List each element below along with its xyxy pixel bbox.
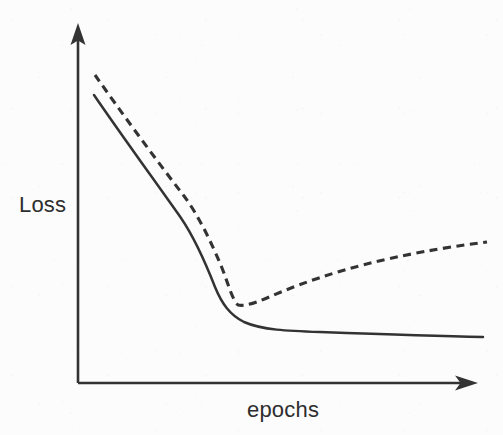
training-loss-curve xyxy=(94,95,483,337)
x-axis-label: epochs xyxy=(247,399,319,421)
plot-area xyxy=(0,0,503,435)
loss-curve-figure: Loss epochs xyxy=(0,0,503,435)
y-axis-label: Loss xyxy=(19,194,66,216)
validation-loss-curve xyxy=(95,75,487,305)
